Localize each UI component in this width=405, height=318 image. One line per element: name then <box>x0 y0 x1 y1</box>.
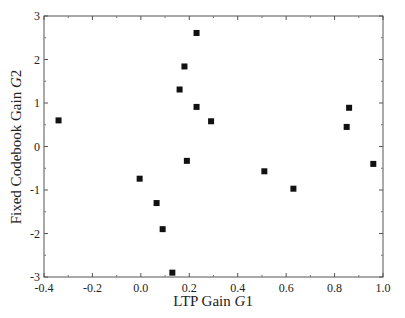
y-tick-label: 0 <box>34 140 40 154</box>
y-tick-labels: 3210-1-2-3 <box>30 9 40 284</box>
data-point-marker <box>290 186 296 192</box>
data-point-marker <box>137 176 143 182</box>
y-tick-label: -3 <box>30 270 40 284</box>
data-point-marker <box>346 105 352 111</box>
axis-ticks <box>44 16 383 277</box>
data-point-marker <box>370 161 376 167</box>
y-tick-label: -1 <box>30 183 40 197</box>
data-point-marker <box>177 87 183 93</box>
y-tick-label: -2 <box>30 227 40 241</box>
data-point-marker <box>194 30 200 36</box>
data-points <box>56 30 377 276</box>
data-point-marker <box>344 124 350 130</box>
scatter-chart: -0.4-0.20.00.20.40.60.81.0 3210-1-2-3 LT… <box>0 0 405 318</box>
data-point-marker <box>261 168 267 174</box>
x-tick-label: 0.6 <box>279 281 294 295</box>
x-tick-label: 1.0 <box>376 281 391 295</box>
data-point-marker <box>194 104 200 110</box>
y-axis-label: Fixed Codebook Gain G2 <box>8 70 24 225</box>
y-tick-label: 3 <box>34 9 40 23</box>
data-point-marker <box>160 226 166 232</box>
x-tick-label: 0.0 <box>133 281 148 295</box>
data-point-marker <box>169 270 175 276</box>
data-point-marker <box>181 63 187 69</box>
y-tick-label: 1 <box>34 96 40 110</box>
y-tick-label: 2 <box>34 53 40 67</box>
plot-frame <box>44 16 383 277</box>
x-tick-label: 0.8 <box>327 281 342 295</box>
data-point-marker <box>154 200 160 206</box>
x-tick-label: -0.2 <box>83 281 102 295</box>
x-axis-label: LTP Gain G1 <box>173 293 253 309</box>
data-point-marker <box>184 158 190 164</box>
data-point-marker <box>56 117 62 123</box>
data-point-marker <box>208 118 214 124</box>
